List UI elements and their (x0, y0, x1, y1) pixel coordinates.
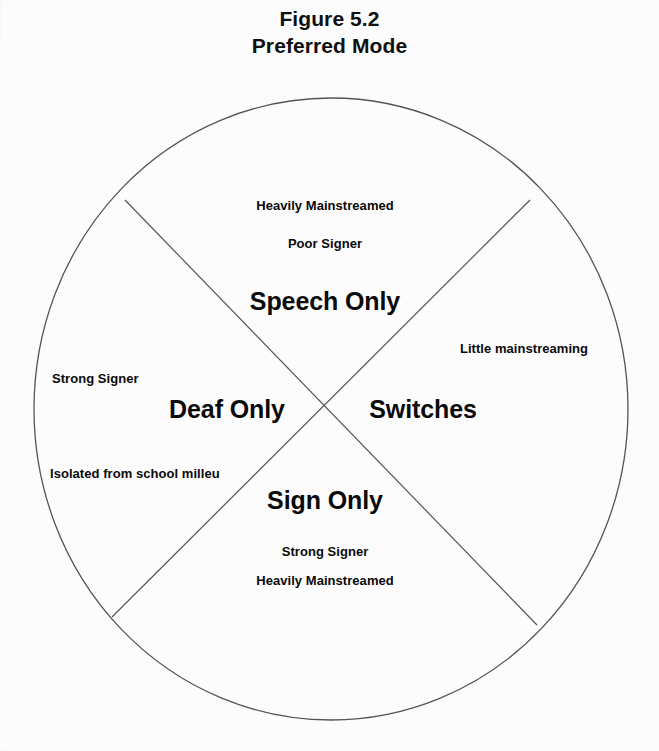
left-quadrant-descriptor-isolated-from-school-milleu: Isolated from school milleu (50, 466, 220, 481)
top-quadrant-descriptor-heavily-mainstreamed: Heavily Mainstreamed (256, 198, 394, 213)
bottom-quadrant-descriptor-heavily-mainstreamed: Heavily Mainstreamed (256, 573, 394, 588)
left-quadrant-label-deaf-only: Deaf Only (169, 395, 285, 424)
top-quadrant-descriptor-poor-signer: Poor Signer (288, 236, 362, 251)
figure-container: Figure 5.2 Preferred Mode Heavily Mainst… (0, 0, 659, 751)
left-quadrant-descriptor-strong-signer: Strong Signer (52, 371, 139, 386)
right-quadrant-label-switches: Switches (369, 395, 477, 424)
top-quadrant-label-speech-only: Speech Only (250, 287, 400, 316)
bottom-quadrant-descriptor-strong-signer: Strong Signer (282, 544, 369, 559)
right-quadrant-descriptor-little-mainstreaming: Little mainstreaming (460, 341, 588, 356)
bottom-quadrant-label-sign-only: Sign Only (267, 486, 383, 515)
outer-circle (34, 98, 628, 720)
